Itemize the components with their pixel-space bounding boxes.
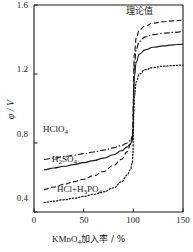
x-axis-title-head: KMnO: [52, 234, 78, 244]
x-tick-label-150: 150: [173, 215, 193, 225]
curve-h2so4: [44, 44, 183, 170]
h2so4-label-mid: SO: [62, 154, 74, 164]
x-axis-title-tail: 加入率 / %: [81, 234, 125, 244]
x-tick-label-0: 0: [24, 215, 44, 225]
data-curves: [44, 20, 183, 202]
hcl-label-sub: 3: [84, 188, 88, 196]
x-axis-title-sub: 4: [78, 238, 82, 246]
h2so4-curve-label: H2SO4: [52, 154, 77, 164]
x-tick-label-100: 100: [123, 215, 143, 225]
h2so4-label-sub: 2: [59, 158, 63, 166]
axes-frame: [34, 5, 183, 212]
hcl-h3po4-curve-label: HCl+H3PO4: [57, 184, 102, 194]
chart-figure: φ / V 1.6 1.2 0.8 0.4 0 50 100 150 KMnO4…: [0, 0, 193, 252]
x-tick-label-50: 50: [74, 215, 94, 225]
y-tick-label-1.6: 1.6: [2, 0, 28, 10]
hclo4-curve-label: HClO4: [43, 124, 68, 134]
h2so4-label-head: H: [52, 154, 59, 164]
y-tick-label-1.2: 1.2: [2, 64, 28, 74]
y-tick-label-0.4: 0.4: [2, 193, 28, 203]
hcl-label-head: HCl+H: [57, 184, 84, 194]
h2so4-label-sub2: 4: [74, 158, 78, 166]
theoretical-curve-label: 理论值: [126, 4, 153, 17]
hclo4-label-head: HClO: [43, 124, 65, 134]
tick-marks: [34, 5, 183, 212]
y-axis-title: φ / V: [5, 92, 16, 128]
y-tick-label-0.8: 0.8: [2, 129, 28, 139]
hcl-label-mid: PO: [87, 184, 99, 194]
curve-hclo4: [44, 32, 183, 160]
hclo4-label-sub: 4: [65, 128, 69, 136]
hcl-label-sub2: 4: [99, 188, 103, 196]
x-axis-title: KMnO4加入率 / %: [52, 232, 125, 245]
